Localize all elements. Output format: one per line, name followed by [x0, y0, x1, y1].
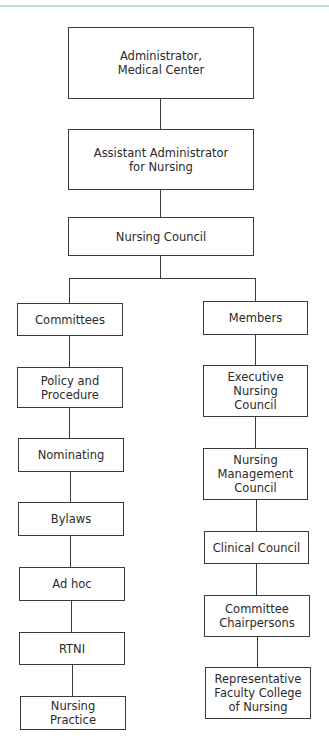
connector: [69, 408, 70, 438]
connector: [256, 564, 257, 595]
connector: [255, 278, 256, 301]
box-nursing-council: Nursing Council: [68, 217, 254, 256]
connector: [255, 335, 256, 365]
connector: [256, 500, 257, 531]
box-rtni: RTNI: [19, 632, 125, 665]
connector: [70, 536, 71, 567]
box-assistant-administrator: Assistant Administrator for Nursing: [68, 129, 254, 190]
box-committees: Committees: [17, 303, 123, 336]
connector: [160, 99, 161, 129]
connector: [70, 472, 71, 502]
box-bylaws: Bylaws: [18, 502, 124, 536]
box-ad-hoc: Ad hoc: [19, 567, 125, 601]
branch-connector: [69, 278, 256, 279]
box-representative-faculty: Representative Faculty College of Nursin…: [205, 667, 311, 719]
box-executive-nursing-council: Executive Nursing Council: [203, 365, 308, 417]
connector: [160, 190, 161, 217]
box-administrator: Administrator, Medical Center: [68, 27, 254, 99]
top-rule: [0, 5, 329, 7]
connector: [255, 417, 256, 448]
connector: [72, 665, 73, 696]
connector: [71, 601, 72, 632]
box-members: Members: [203, 301, 308, 335]
box-policy-and-procedure: Policy and Procedure: [17, 367, 123, 408]
box-nursing-management-council: Nursing Management Council: [203, 448, 308, 500]
box-nominating: Nominating: [18, 438, 124, 472]
connector: [257, 637, 258, 667]
connector: [160, 256, 161, 278]
box-clinical-council: Clinical Council: [204, 531, 309, 564]
connector: [69, 278, 70, 303]
box-nursing-practice: Nursing Practice: [20, 696, 126, 730]
box-committee-chairpersons: Committee Chairpersons: [204, 595, 310, 637]
connector: [69, 336, 70, 367]
